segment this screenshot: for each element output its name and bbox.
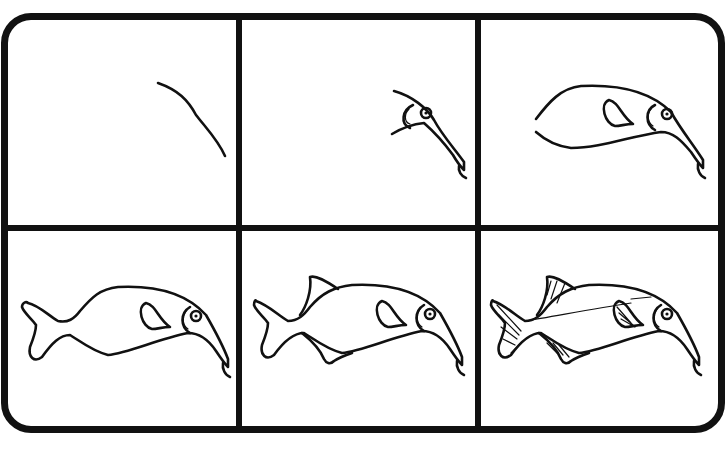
- step-2-panel: [242, 20, 475, 225]
- tail-fin-drawing: [8, 231, 236, 426]
- head-drawing: [242, 20, 475, 225]
- step-6-panel: [481, 231, 718, 426]
- step-3-panel: [481, 20, 718, 225]
- body-outline-drawing: [481, 20, 718, 225]
- step-5-panel: [242, 231, 475, 426]
- dorsal-anal-fins-drawing: [242, 231, 475, 426]
- step-1-panel: [8, 20, 236, 225]
- back-curve-drawing: [8, 20, 236, 225]
- tutorial-frame: [1, 13, 725, 433]
- step-4-panel: [8, 231, 236, 426]
- finished-fish-drawing: [481, 231, 718, 426]
